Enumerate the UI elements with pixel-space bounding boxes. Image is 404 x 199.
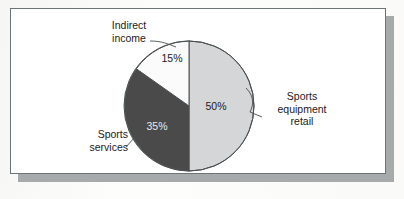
slice-label-indirect-income: Indirect income [96, 19, 162, 44]
slice-value-sports-equipment-retail: 50% [205, 100, 226, 112]
slice-value-sports-services: 35% [146, 120, 167, 132]
pie-chart-svg: 50% 35% 15% [0, 0, 404, 199]
pie-chart: 50% 35% 15% Indirect income Sports equip… [0, 0, 404, 199]
chart-page: 50% 35% 15% Indirect income Sports equip… [0, 0, 404, 199]
slice-label-sports-services: Sports services [62, 128, 128, 153]
slice-label-sports-equipment-retail: Sports equipment retail [264, 90, 340, 128]
slice-value-indirect-income: 15% [161, 52, 182, 64]
